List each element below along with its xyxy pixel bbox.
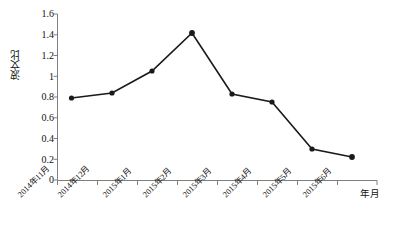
data-point bbox=[149, 68, 154, 73]
data-point bbox=[229, 91, 234, 96]
data-point bbox=[69, 95, 74, 100]
y-tick-marks bbox=[54, 14, 58, 180]
series-markers bbox=[69, 30, 355, 160]
x-tick-marks bbox=[58, 181, 378, 186]
x-axis-title: 年月 bbox=[360, 186, 380, 200]
data-point bbox=[189, 30, 195, 36]
data-point bbox=[109, 90, 114, 95]
data-point bbox=[309, 146, 314, 151]
line-chart: 波文比 1.6 1.4 1.2 1 0.8 0.6 0.4 0.2 0 bbox=[0, 0, 394, 241]
data-point bbox=[349, 154, 355, 160]
plot-area bbox=[0, 0, 394, 241]
data-point bbox=[269, 99, 274, 104]
